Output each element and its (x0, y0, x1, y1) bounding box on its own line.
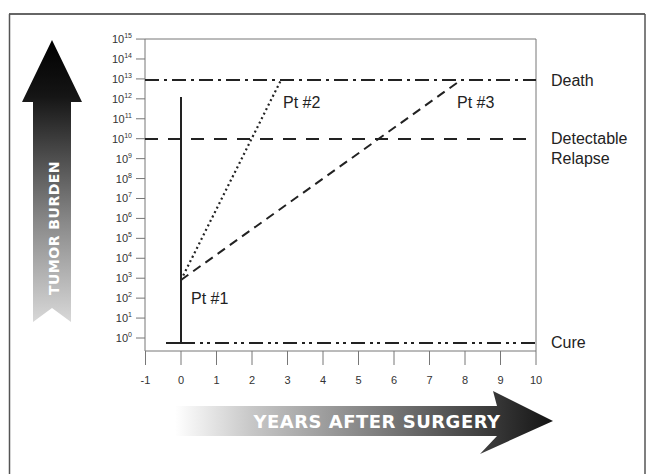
x-axis-title-arrow: Years After Surgery (175, 391, 553, 454)
x-tick-label: 0 (178, 374, 184, 386)
y-axis-title: Tumor Burden (46, 161, 62, 295)
y-axis: 1001011021031041051061071081091010101110… (112, 32, 145, 344)
y-tick-label: 1012 (112, 92, 132, 105)
y-tick-label: 108 (116, 172, 132, 185)
series-pt2 (181, 80, 281, 280)
x-axis-title: Years After Surgery (252, 411, 501, 432)
y-tick-label: 101 (116, 311, 132, 324)
x-tick-label: 1 (213, 374, 219, 386)
label-relapse-2: Relapse (551, 150, 610, 167)
y-tick-label: 1010 (112, 132, 132, 145)
label-pt1: Pt #1 (191, 290, 228, 307)
y-tick-label: 106 (116, 211, 132, 224)
label-death: Death (551, 72, 594, 89)
y-tick-label: 109 (116, 152, 132, 165)
x-tick-label: 3 (284, 374, 290, 386)
y-tick-label: 107 (116, 191, 132, 204)
x-tick-label: -1 (141, 374, 151, 386)
annotations: Pt #1 Pt #2 Pt #3 Death Detectable Relap… (191, 72, 628, 351)
x-tick-label: 2 (249, 374, 255, 386)
y-tick-label: 103 (116, 271, 132, 284)
label-cure: Cure (551, 334, 586, 351)
x-tick-label: 5 (355, 374, 361, 386)
series-pt1 (166, 97, 181, 343)
x-tick-label: 10 (530, 374, 542, 386)
x-axis: -1012345678910 (141, 351, 543, 386)
label-relapse-1: Detectable (551, 130, 628, 147)
x-tick-label: 7 (426, 374, 432, 386)
y-tick-label: 1013 (112, 72, 132, 85)
x-tick-label: 6 (391, 374, 397, 386)
series-pt3 (181, 80, 461, 280)
x-tick-label: 8 (462, 374, 468, 386)
y-tick-label: 1011 (112, 112, 132, 125)
y-tick-label: 102 (116, 291, 132, 304)
y-tick-label: 1014 (112, 52, 132, 65)
label-pt3: Pt #3 (457, 94, 494, 111)
y-tick-label: 105 (116, 231, 132, 244)
y-tick-label: 1015 (112, 32, 132, 45)
y-tick-label: 104 (116, 251, 132, 264)
x-tick-label: 4 (320, 374, 326, 386)
y-tick-label: 100 (116, 331, 132, 344)
y-axis-title-arrow: Tumor Burden (22, 40, 82, 322)
tumor-burden-chart: Tumor Burden Years After Surgery 1001011… (0, 0, 654, 474)
outer-frame (9, 14, 645, 474)
label-pt2: Pt #2 (283, 94, 320, 111)
x-tick-label: 9 (497, 374, 503, 386)
